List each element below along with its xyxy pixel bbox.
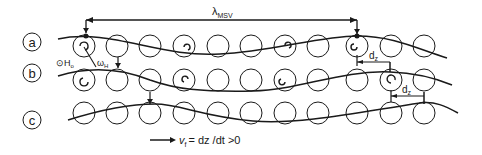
- angle-label: ωH: [97, 58, 108, 69]
- displacement-label-a: dz: [369, 50, 379, 62]
- wavelength-label: λMSV: [212, 5, 233, 19]
- displacement-label-b: dz: [402, 84, 412, 96]
- row-a-wave: [58, 36, 447, 58]
- field-label: ⊙Ho: [56, 58, 75, 69]
- svg-text:c: c: [29, 113, 36, 128]
- row-label-c: c: [23, 111, 41, 129]
- velocity-expression: vf= dz /dt >0: [179, 134, 240, 148]
- row-label-b: b: [23, 64, 41, 82]
- row-b-wave: [58, 70, 452, 92]
- row-label-a: a: [23, 33, 41, 51]
- tick-a-b: [115, 57, 121, 68]
- vortex-lattice-diagram: λMSV a b c d: [0, 0, 482, 155]
- wavelength-arrow: [83, 17, 360, 34]
- svg-text:a: a: [28, 35, 36, 50]
- diagram-canvas: λMSV a b c d: [0, 0, 482, 155]
- velocity-arrow: [150, 137, 176, 143]
- svg-text:b: b: [28, 66, 35, 81]
